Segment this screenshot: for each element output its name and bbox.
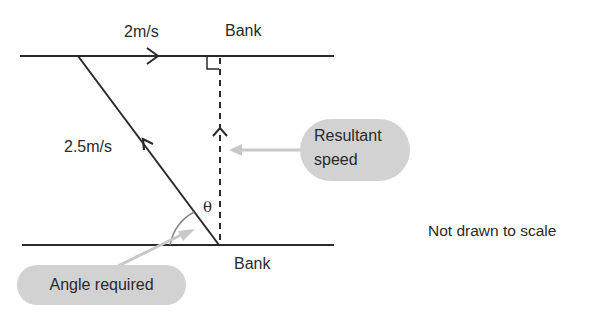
angle-callout-pointer: [118, 234, 183, 266]
resultant-arrowhead: [213, 128, 227, 136]
top-bank-label: Bank: [225, 22, 262, 39]
angle-required-callout: Angle required: [17, 265, 186, 305]
bottom-bank-label: Bank: [234, 255, 271, 272]
theta-label: θ: [203, 198, 212, 216]
resultant-callout-pointer-head: [229, 144, 242, 156]
resultant-callout-line1: Resultant: [314, 124, 410, 148]
right-angle-marker: [207, 57, 219, 69]
boat-speed-label: 2.5m/s: [64, 138, 112, 155]
river-speed-label: 2m/s: [124, 23, 159, 40]
resultant-callout-line2: speed: [314, 148, 410, 172]
scale-note: Not drawn to scale: [428, 222, 556, 240]
angle-callout-pointer-head: [178, 229, 195, 241]
resultant-speed-callout: Resultant speed: [300, 119, 410, 181]
